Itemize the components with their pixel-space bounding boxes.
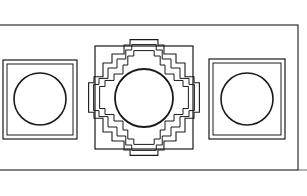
panel-elevation-diagram bbox=[0, 0, 307, 196]
drawing-background bbox=[0, 0, 307, 196]
drawing-canvas: Three-panel elevation band with stepped … bbox=[0, 0, 307, 196]
